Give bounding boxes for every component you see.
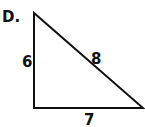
problem-label: D.	[2, 8, 20, 26]
triangle	[34, 13, 143, 108]
triangle-diagram: D. 6 8 7	[0, 0, 145, 127]
side-label-bottom: 7	[84, 111, 94, 127]
side-label-hypotenuse: 8	[91, 50, 101, 68]
side-label-left: 6	[22, 53, 32, 71]
